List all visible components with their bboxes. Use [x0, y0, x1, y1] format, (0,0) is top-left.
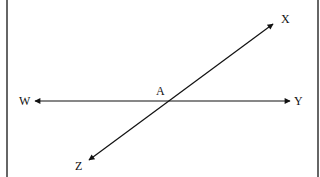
label-w: W	[19, 94, 31, 108]
label-y: Y	[294, 94, 303, 108]
intersecting-lines-diagram: A W Y X Z	[0, 0, 320, 177]
label-z: Z	[75, 159, 82, 173]
label-x: X	[281, 12, 290, 26]
diagram-canvas: A W Y X Z	[0, 0, 320, 177]
label-a: A	[156, 84, 165, 98]
line-zx	[89, 24, 273, 160]
